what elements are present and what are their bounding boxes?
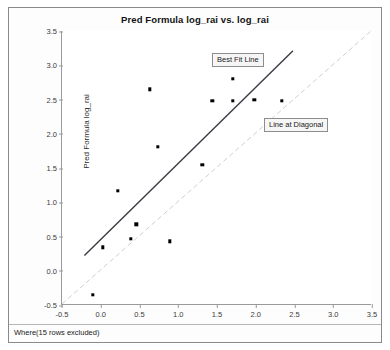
- x-tick-label: 2.0: [251, 304, 261, 319]
- data-point[interactable]: [231, 77, 234, 80]
- x-tick-label: -0.5: [56, 304, 69, 319]
- x-tick-label: 1.5: [212, 304, 222, 319]
- y-tick-label: 1.5: [47, 164, 62, 173]
- trend-line: [84, 51, 293, 256]
- x-tick-label: 2.5: [289, 304, 299, 319]
- line-annotation-label[interactable]: Line at Diagonal: [264, 118, 328, 132]
- data-point[interactable]: [211, 99, 214, 102]
- data-point[interactable]: [101, 246, 104, 249]
- plot-lines-layer: [62, 31, 371, 304]
- rows-excluded-note: Where(15 rows excluded): [14, 328, 99, 337]
- data-point[interactable]: [148, 88, 151, 91]
- data-point[interactable]: [135, 222, 138, 225]
- data-point[interactable]: [252, 98, 255, 101]
- x-tick-label: 1.0: [173, 304, 183, 319]
- data-point[interactable]: [168, 240, 171, 243]
- data-point[interactable]: [116, 189, 119, 192]
- data-point[interactable]: [91, 293, 94, 296]
- y-tick-label: 2.0: [47, 129, 62, 138]
- y-tick-label: 1.0: [47, 198, 62, 207]
- y-tick-label: 0.5: [47, 232, 62, 241]
- x-tick-label: 3.0: [328, 304, 338, 319]
- footer-bar: Where(15 rows excluded): [9, 324, 381, 342]
- line-annotation-label[interactable]: Best Fit Line: [212, 53, 264, 67]
- data-point[interactable]: [129, 237, 132, 240]
- y-tick-label: 3.0: [47, 61, 62, 70]
- data-point[interactable]: [280, 99, 283, 102]
- x-tick-label: 0.0: [96, 304, 106, 319]
- y-tick-label: 3.5: [47, 27, 62, 36]
- data-point[interactable]: [231, 99, 234, 102]
- chart-title: Pred Formula log_rai vs. log_rai: [9, 14, 381, 25]
- y-axis-label: Pred Formula log_rai: [82, 62, 91, 202]
- data-point[interactable]: [156, 145, 159, 148]
- chart-window: Pred Formula log_rai vs. log_rai -0.50.0…: [8, 7, 382, 343]
- plot-area[interactable]: -0.50.00.51.01.52.02.53.03.5 -0.50.00.51…: [61, 31, 371, 305]
- x-tick-label: 0.5: [134, 304, 144, 319]
- y-tick-label: 2.5: [47, 95, 62, 104]
- data-point[interactable]: [201, 163, 204, 166]
- trend-line: [62, 31, 371, 304]
- x-tick-label: 3.5: [367, 304, 377, 319]
- y-tick-label: 0.0: [47, 266, 62, 275]
